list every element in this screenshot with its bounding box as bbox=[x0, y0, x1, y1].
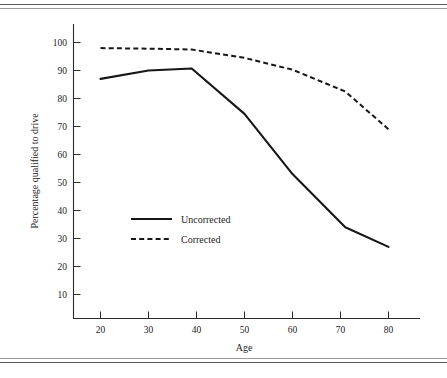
figure-container: 100 90 80 70 60 50 40 30 20 10 20 30 bbox=[0, 0, 447, 378]
x-axis-title: Age bbox=[236, 342, 253, 353]
legend-label-corrected: Corrected bbox=[181, 234, 220, 245]
y-tick-label: 10 bbox=[58, 290, 68, 300]
rule-line bbox=[0, 362, 447, 363]
x-tick-label: 70 bbox=[336, 325, 346, 335]
series-line-corrected bbox=[101, 48, 389, 129]
y-tick-label: 100 bbox=[53, 38, 68, 48]
y-tick-label: 80 bbox=[58, 94, 68, 104]
y-tick-label: 20 bbox=[58, 262, 68, 272]
y-tick-label: 50 bbox=[58, 178, 68, 188]
x-tick-label: 50 bbox=[240, 325, 250, 335]
x-tick-label: 40 bbox=[192, 325, 202, 335]
bottom-rule-band bbox=[0, 358, 447, 363]
y-tick-label: 40 bbox=[58, 206, 68, 216]
y-tick-label: 60 bbox=[58, 150, 68, 160]
line-chart: 100 90 80 70 60 50 40 30 20 10 20 30 bbox=[0, 18, 447, 354]
axis-lines bbox=[74, 24, 421, 319]
y-tick-marks bbox=[74, 43, 81, 295]
x-tick-label: 30 bbox=[144, 325, 154, 335]
y-axis-title: Percentage qualified to drive bbox=[29, 113, 40, 229]
series-line-uncorrected bbox=[101, 69, 389, 247]
y-tick-label: 90 bbox=[58, 66, 68, 76]
plot-area: 100 90 80 70 60 50 40 30 20 10 20 30 bbox=[0, 18, 447, 354]
x-tick-label: 20 bbox=[96, 325, 106, 335]
rule-line bbox=[0, 8, 447, 9]
y-tick-label: 70 bbox=[58, 122, 68, 132]
legend: Uncorrected Corrected bbox=[131, 214, 230, 245]
x-tick-marks bbox=[101, 312, 389, 319]
x-tick-label: 80 bbox=[384, 325, 394, 335]
y-tick-label: 30 bbox=[58, 234, 68, 244]
x-tick-label: 60 bbox=[288, 325, 298, 335]
top-rule-band bbox=[0, 4, 447, 9]
legend-label-uncorrected: Uncorrected bbox=[181, 214, 230, 225]
